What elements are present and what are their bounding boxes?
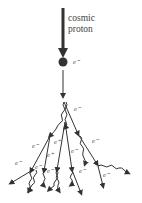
particle-label: e⁻ <box>32 143 39 150</box>
primary-electron-label: e⁻ <box>73 59 80 66</box>
particle-label: e⁻ <box>15 160 22 167</box>
particle-label: e⁻ <box>71 148 78 155</box>
particle-label: e⁻ <box>79 168 86 175</box>
collision-point-icon <box>59 58 68 67</box>
particle-label: e⁻ <box>103 172 110 179</box>
cosmic-label: cosmic <box>68 14 95 24</box>
particle-label: e⁻ <box>35 164 42 171</box>
particle-label: e⁺ <box>54 139 61 146</box>
cosmic-proton-arrow <box>58 8 68 58</box>
cosmic-ray-shower-diagram: cosmic proton e⁻ e⁻ e⁻ e⁺ e⁻ e⁺ e⁻ e⁻ e⁻… <box>0 0 142 203</box>
particle-label: e⁻ <box>47 168 54 175</box>
particle-label: e⁻ <box>74 106 81 113</box>
particle-label: e⁺ <box>47 152 54 159</box>
particle-shower <box>11 102 128 193</box>
proton-label: proton <box>68 25 93 35</box>
particle-label: e⁻ <box>92 138 99 145</box>
